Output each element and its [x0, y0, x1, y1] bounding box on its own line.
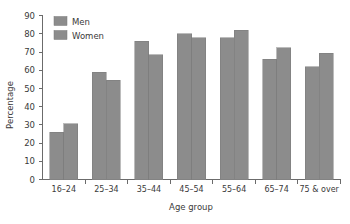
x-axis-title: Age group	[169, 202, 213, 212]
y-tick-label-10: 10	[24, 156, 35, 166]
bar-women-5	[277, 48, 291, 180]
legend-label-women: Women	[72, 31, 104, 41]
legend-swatch-men	[54, 17, 67, 26]
y-tick-label-0: 0	[30, 175, 35, 185]
bar-women-2	[149, 55, 163, 180]
x-category-label-4: 55–64	[222, 185, 246, 194]
bar-chart-figure: 0 10 20 30 40 50 60 70 80 90 Percentage	[0, 0, 350, 224]
bar-women-4	[234, 30, 248, 179]
x-category-label-1: 25–34	[94, 185, 118, 194]
x-category-label-0: 16–24	[52, 185, 76, 194]
bar-men-4	[220, 38, 234, 180]
x-category-label-3: 45–54	[179, 185, 203, 194]
y-tick-label-50: 50	[24, 84, 35, 94]
y-axis-title: Percentage	[5, 81, 15, 129]
x-category-label-2: 35–44	[137, 185, 161, 194]
y-tick-label-70: 70	[24, 47, 35, 57]
chart-canvas: 0 10 20 30 40 50 60 70 80 90 Percentage	[0, 0, 350, 224]
y-tick-label-90: 90	[24, 11, 35, 21]
x-category-label-6: 75 & over	[300, 185, 340, 194]
y-tick-label-20: 20	[24, 138, 35, 148]
y-tick-label-30: 30	[24, 120, 35, 130]
legend-swatch-women	[54, 31, 67, 40]
legend-label-men: Men	[72, 17, 90, 27]
y-tick-label-40: 40	[24, 102, 35, 112]
y-tick-label-80: 80	[24, 29, 35, 39]
bar-men-2	[135, 41, 149, 179]
bar-men-0	[50, 132, 64, 179]
bar-women-1	[106, 80, 120, 179]
bar-women-0	[64, 124, 78, 180]
bar-men-3	[177, 34, 191, 180]
bar-women-3	[192, 38, 206, 180]
y-tick-label-60: 60	[24, 65, 35, 75]
bar-women-6	[319, 53, 333, 179]
x-category-label-5: 65–74	[264, 185, 288, 194]
bar-men-6	[305, 67, 319, 180]
bar-men-1	[92, 72, 106, 179]
bar-men-5	[263, 59, 277, 179]
